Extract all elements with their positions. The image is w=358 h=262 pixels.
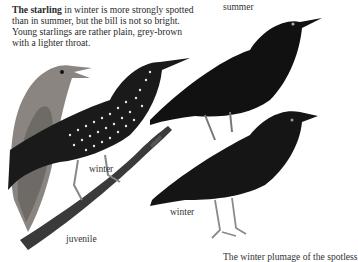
label-summer: summer	[223, 2, 254, 12]
label-winter-left: winter	[89, 164, 113, 174]
footer-text: The winter plumage of the spotless	[223, 251, 358, 262]
winter-starling-right-icon	[150, 111, 318, 238]
label-winter-right: winter	[170, 207, 194, 217]
label-juvenile: juvenile	[66, 234, 97, 244]
